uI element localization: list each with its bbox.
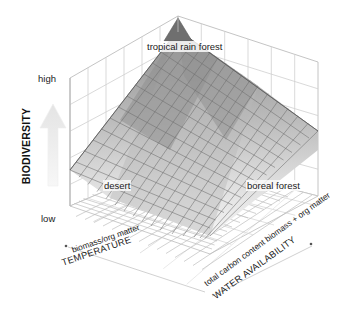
- annotation-tropical-rain-forest: tropical rain forest: [146, 41, 224, 52]
- y-axis-tick-low: low: [41, 213, 55, 224]
- biodiversity-surface-figure: BIODIVERSITY high low tropical rain fore…: [0, 0, 358, 326]
- biodiversity-up-arrow-icon: [40, 104, 66, 186]
- y-axis-title: BIODIVERSITY: [20, 91, 32, 201]
- annotation-boreal-forest: boreal forest: [246, 180, 301, 191]
- y-axis-tick-high: high: [38, 73, 56, 84]
- annotation-desert: desert: [103, 180, 131, 191]
